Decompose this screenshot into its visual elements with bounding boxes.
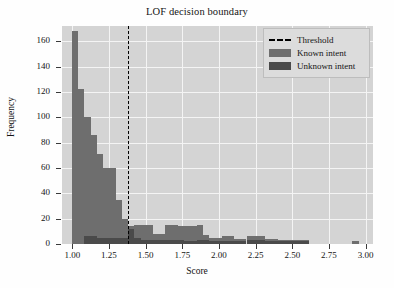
x-tick bbox=[292, 244, 293, 249]
gridline-vertical bbox=[146, 26, 147, 244]
y-tick bbox=[56, 143, 61, 144]
bar bbox=[278, 241, 284, 244]
y-tick-label: 0 bbox=[4, 238, 50, 248]
y-tick bbox=[56, 67, 61, 68]
bar bbox=[203, 240, 209, 244]
y-tick-label: 20 bbox=[4, 213, 50, 223]
legend: Threshold Known intent Unknown intent bbox=[263, 28, 370, 78]
legend-item-threshold: Threshold bbox=[269, 33, 364, 46]
x-tick-label: 2.75 bbox=[309, 250, 349, 260]
known-intent-swatch-icon bbox=[269, 49, 291, 57]
x-tick-label: 2.00 bbox=[199, 250, 239, 260]
gridline-vertical bbox=[256, 26, 257, 244]
bar bbox=[153, 240, 159, 244]
legend-label: Known intent bbox=[297, 48, 346, 58]
x-tick bbox=[219, 244, 220, 249]
x-tick-label: 2.25 bbox=[236, 250, 276, 260]
y-tick-label: 60 bbox=[4, 162, 50, 172]
x-axis-label: Score bbox=[0, 266, 394, 276]
threshold-line-icon bbox=[269, 39, 291, 41]
x-tick-label: 1.50 bbox=[126, 250, 166, 260]
legend-label: Unknown intent bbox=[297, 61, 355, 71]
gridline-vertical bbox=[182, 26, 183, 244]
x-tick-label: 2.50 bbox=[272, 250, 312, 260]
y-tick bbox=[56, 41, 61, 42]
bar bbox=[78, 89, 84, 244]
x-tick bbox=[366, 244, 367, 249]
x-tick-label: 1.75 bbox=[162, 250, 202, 260]
x-tick bbox=[146, 244, 147, 249]
bar bbox=[303, 241, 309, 244]
y-tick-label: 40 bbox=[4, 187, 50, 197]
bar bbox=[352, 241, 358, 244]
bar bbox=[103, 168, 109, 244]
x-tick-label: 1.00 bbox=[52, 250, 92, 260]
legend-label: Threshold bbox=[297, 35, 334, 45]
gridline-vertical bbox=[219, 26, 220, 244]
y-tick bbox=[56, 244, 61, 245]
bar bbox=[91, 135, 97, 244]
x-tick bbox=[72, 244, 73, 249]
legend-item-unknown-intent: Unknown intent bbox=[269, 59, 364, 72]
x-tick bbox=[256, 244, 257, 249]
y-tick-label: 140 bbox=[4, 61, 50, 71]
y-tick bbox=[56, 168, 61, 169]
y-tick bbox=[56, 92, 61, 93]
y-tick bbox=[56, 193, 61, 194]
bar bbox=[165, 240, 171, 244]
bar bbox=[190, 241, 196, 244]
x-tick bbox=[329, 244, 330, 249]
bar bbox=[91, 236, 97, 244]
unknown-intent-swatch-icon bbox=[269, 62, 291, 70]
bar bbox=[228, 241, 234, 244]
y-tick-label: 100 bbox=[4, 111, 50, 121]
bar bbox=[240, 241, 246, 244]
y-tick-label: 120 bbox=[4, 86, 50, 96]
x-tick bbox=[109, 244, 110, 249]
y-tick-label: 80 bbox=[4, 137, 50, 147]
y-tick bbox=[56, 117, 61, 118]
x-tick-label: 3.00 bbox=[346, 250, 386, 260]
x-tick bbox=[182, 244, 183, 249]
bar bbox=[265, 241, 271, 244]
legend-item-known-intent: Known intent bbox=[269, 46, 364, 59]
chart-title: LOF decision boundary bbox=[0, 6, 394, 17]
figure: LOF decision boundary Frequency Score 02… bbox=[0, 0, 394, 288]
y-tick bbox=[56, 219, 61, 220]
bar bbox=[116, 238, 122, 244]
x-tick-label: 1.25 bbox=[89, 250, 129, 260]
threshold-line bbox=[128, 26, 129, 244]
y-tick-label: 160 bbox=[4, 35, 50, 45]
